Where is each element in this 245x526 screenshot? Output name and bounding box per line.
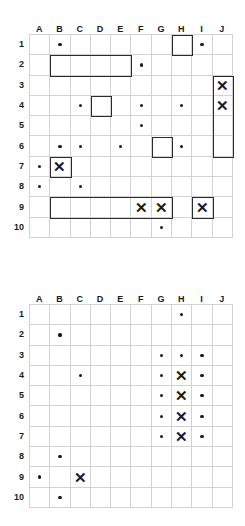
cell-d8[interactable] (91, 447, 111, 467)
cell-a4[interactable] (30, 366, 50, 386)
cell-h10[interactable] (172, 218, 192, 238)
cell-e4[interactable] (111, 96, 131, 116)
cell-e8[interactable] (111, 177, 131, 197)
cell-g10[interactable] (152, 488, 172, 508)
cell-h6[interactable]: ✕ (172, 406, 192, 426)
cell-b9[interactable] (50, 197, 70, 217)
cell-g9[interactable] (152, 467, 172, 487)
cell-j9[interactable] (213, 467, 233, 487)
cell-i8[interactable] (192, 177, 212, 197)
cell-g1[interactable] (152, 35, 172, 55)
cell-d5[interactable] (91, 116, 111, 136)
cell-a10[interactable] (30, 218, 50, 238)
cell-b7[interactable] (50, 427, 70, 447)
cell-g1[interactable] (152, 305, 172, 325)
cell-f1[interactable] (131, 305, 151, 325)
cell-j2[interactable] (213, 55, 233, 75)
cell-c9[interactable]: ✕ (71, 467, 91, 487)
cell-h4[interactable]: ✕ (172, 366, 192, 386)
cell-c3[interactable] (71, 76, 91, 96)
cell-d8[interactable] (91, 177, 111, 197)
cell-a5[interactable] (30, 116, 50, 136)
cell-f9[interactable]: ✕ (131, 197, 151, 217)
cell-a8[interactable] (30, 177, 50, 197)
cell-i1[interactable] (192, 305, 212, 325)
cell-d9[interactable] (91, 197, 111, 217)
cell-j3[interactable] (213, 346, 233, 366)
cell-e9[interactable] (111, 467, 131, 487)
cell-j9[interactable] (213, 197, 233, 217)
cell-c6[interactable] (71, 406, 91, 426)
cell-j3[interactable]: ✕ (213, 76, 233, 96)
cell-c1[interactable] (71, 305, 91, 325)
cell-c8[interactable] (71, 177, 91, 197)
cell-j6[interactable] (213, 406, 233, 426)
cell-area[interactable]: ✕✕✕✕✕✕ (29, 34, 233, 238)
cell-h9[interactable] (172, 467, 192, 487)
cell-a1[interactable] (30, 35, 50, 55)
cell-g4[interactable] (152, 366, 172, 386)
cell-d7[interactable] (91, 427, 111, 447)
cell-b8[interactable] (50, 447, 70, 467)
cell-i3[interactable] (192, 346, 212, 366)
cell-d4[interactable] (91, 366, 111, 386)
cell-j4[interactable] (213, 366, 233, 386)
cell-c2[interactable] (71, 325, 91, 345)
cell-i5[interactable] (192, 386, 212, 406)
cell-a9[interactable] (30, 467, 50, 487)
cell-d3[interactable] (91, 76, 111, 96)
cell-e3[interactable] (111, 346, 131, 366)
cell-f7[interactable] (131, 427, 151, 447)
cell-g6[interactable] (152, 406, 172, 426)
cell-g7[interactable] (152, 427, 172, 447)
cell-b9[interactable] (50, 467, 70, 487)
cell-c9[interactable] (71, 197, 91, 217)
cell-h1[interactable] (172, 35, 192, 55)
cell-f2[interactable] (131, 55, 151, 75)
cell-h6[interactable] (172, 136, 192, 156)
cell-d1[interactable] (91, 305, 111, 325)
cell-h2[interactable] (172, 325, 192, 345)
cell-f4[interactable] (131, 366, 151, 386)
cell-h9[interactable] (172, 197, 192, 217)
cell-j8[interactable] (213, 447, 233, 467)
cell-e8[interactable] (111, 447, 131, 467)
cell-a1[interactable] (30, 305, 50, 325)
cell-a8[interactable] (30, 447, 50, 467)
cell-e9[interactable] (111, 197, 131, 217)
cell-g10[interactable] (152, 218, 172, 238)
cell-g2[interactable] (152, 325, 172, 345)
cell-j7[interactable] (213, 427, 233, 447)
cell-c2[interactable] (71, 55, 91, 75)
cell-c10[interactable] (71, 218, 91, 238)
cell-h8[interactable] (172, 447, 192, 467)
cell-a5[interactable] (30, 386, 50, 406)
cell-g8[interactable] (152, 447, 172, 467)
cell-a2[interactable] (30, 55, 50, 75)
cell-e4[interactable] (111, 366, 131, 386)
cell-e7[interactable] (111, 157, 131, 177)
cell-d10[interactable] (91, 218, 111, 238)
cell-i6[interactable] (192, 406, 212, 426)
cell-h8[interactable] (172, 177, 192, 197)
cell-g3[interactable] (152, 76, 172, 96)
cell-h3[interactable] (172, 76, 192, 96)
cell-b1[interactable] (50, 35, 70, 55)
cell-b4[interactable] (50, 96, 70, 116)
cell-h7[interactable] (172, 157, 192, 177)
cell-a10[interactable] (30, 488, 50, 508)
cell-c6[interactable] (71, 136, 91, 156)
cell-f1[interactable] (131, 35, 151, 55)
cell-e2[interactable] (111, 55, 131, 75)
cell-e10[interactable] (111, 488, 131, 508)
cell-d2[interactable] (91, 55, 111, 75)
cell-i10[interactable] (192, 218, 212, 238)
cell-e3[interactable] (111, 76, 131, 96)
cell-j10[interactable] (213, 488, 233, 508)
cell-i10[interactable] (192, 488, 212, 508)
cell-b1[interactable] (50, 305, 70, 325)
cell-g2[interactable] (152, 55, 172, 75)
cell-f5[interactable] (131, 386, 151, 406)
cell-a2[interactable] (30, 325, 50, 345)
cell-i8[interactable] (192, 447, 212, 467)
